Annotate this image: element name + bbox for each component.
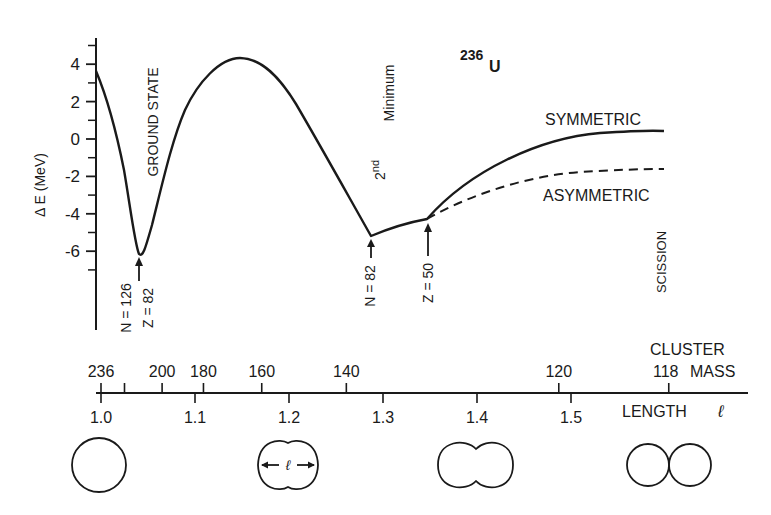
length-tick-label: 1.1 — [184, 409, 206, 426]
n126-label: N = 126 — [118, 283, 134, 333]
mass-tick-label: 118 — [653, 363, 679, 380]
mass-tick-label: 140 — [333, 363, 360, 380]
n82-arrow — [367, 239, 375, 258]
second-superscript: nd — [369, 160, 381, 172]
z82-label: Z = 82 — [140, 288, 156, 328]
y-tick-label: 0 — [71, 130, 80, 149]
length-tick-label: 1.4 — [466, 409, 488, 426]
n82-label: N = 82 — [362, 265, 378, 307]
y-tick-label: 2 — [71, 93, 80, 112]
left-fragment-sphere — [627, 444, 669, 486]
sphere-shape — [72, 438, 126, 492]
mass-label: MASS — [690, 363, 735, 380]
nuclear-shapes: ℓ — [72, 438, 711, 492]
z50-arrow — [424, 223, 432, 256]
y-tick-label: -4 — [65, 205, 80, 224]
scission-label: SCISSION — [654, 231, 669, 293]
necked-dumbbell-shape — [438, 443, 513, 488]
length-ticks: 1.01.11.21.31.41.5 — [90, 393, 582, 426]
mass-tick-label: 120 — [545, 363, 572, 380]
length-tick-label: 1.5 — [560, 409, 582, 426]
mass-tick-label: 180 — [190, 363, 217, 380]
ground-state-arrow — [135, 257, 143, 281]
asymmetric-label: ASYMMETRIC — [543, 187, 650, 204]
length-tick-label: 1.0 — [90, 409, 112, 426]
length-tick-label: 1.2 — [278, 409, 300, 426]
z50-label: Z = 50 — [420, 263, 436, 303]
second-minimum-label: 2nd — [369, 160, 388, 180]
cluster-label: CLUSTER — [650, 341, 725, 358]
second-text: 2 — [372, 172, 388, 180]
right-fragment-sphere — [669, 444, 711, 486]
minimum-label: Minimum — [381, 65, 397, 122]
length-label: LENGTH — [622, 403, 687, 420]
y-tick-label: -6 — [65, 242, 80, 261]
fission-barrier-chart: 420-2-4-6 Δ E (MeV) 236 U GROUND STATE N… — [0, 0, 771, 515]
y-axis-ticks: 420-2-4-6 — [65, 46, 96, 270]
ground-state-label: GROUND STATE — [145, 67, 161, 176]
symmetric-label: SYMMETRIC — [545, 111, 641, 128]
symmetric-curve — [96, 58, 664, 255]
length-dimension-label: ℓ — [285, 457, 291, 473]
nucleus-element: U — [489, 58, 501, 75]
mass-tick-label: 160 — [248, 363, 275, 380]
nucleus-mass-number: 236 — [460, 47, 484, 63]
mass-tick-label: 236 — [88, 363, 115, 380]
mass-tick-label: 200 — [149, 363, 176, 380]
length-tick-label: 1.3 — [372, 409, 394, 426]
ell-symbol: ℓ — [717, 402, 724, 421]
cluster-mass-ticks: 236200180160140120118 — [88, 363, 679, 393]
y-axis-label: Δ E (MeV) — [32, 153, 48, 217]
y-tick-label: -2 — [65, 167, 80, 186]
y-tick-label: 4 — [71, 55, 80, 74]
